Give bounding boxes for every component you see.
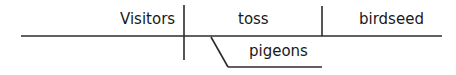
sentence-diagram: Visitors toss birdseed pigeons [0,0,456,75]
direct-object-word: birdseed [359,12,424,27]
indirect-object-word: pigeons [249,44,308,59]
indirect-object-slant [211,37,228,67]
subject-word: Visitors [120,12,175,27]
verb-word: toss [238,12,269,27]
